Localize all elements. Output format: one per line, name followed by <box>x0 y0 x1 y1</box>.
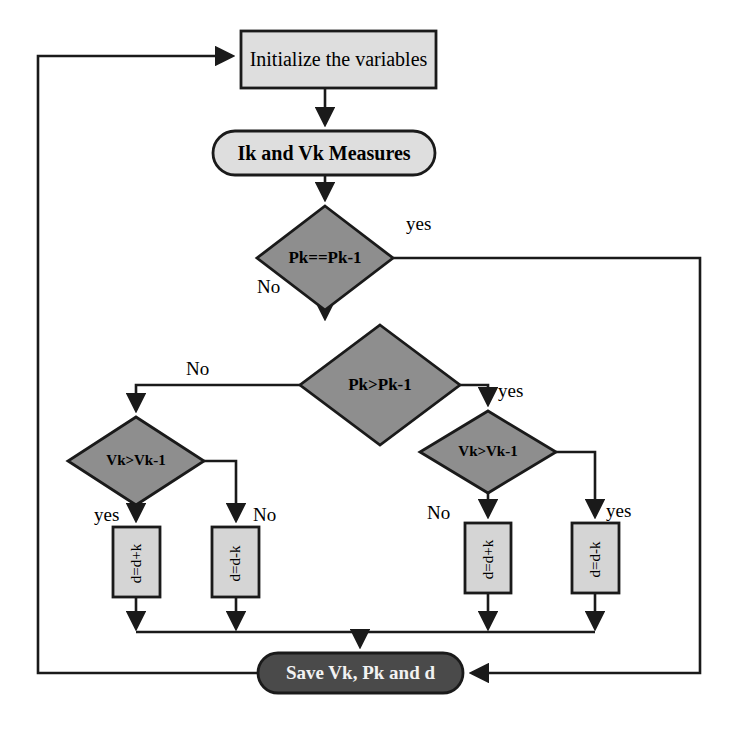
edge-dec2-yes-to-vkright <box>460 385 488 404</box>
node-box-left-minus-label: d=d-k <box>227 540 244 587</box>
node-measure[interactable] <box>213 131 435 175</box>
edge-label-vk-left-no: No <box>253 504 276 526</box>
node-decision-pk-greater[interactable] <box>300 325 460 445</box>
nodes-group <box>68 31 619 693</box>
edge-label-pk-equal-no: No <box>257 276 280 298</box>
node-decision-vk-left[interactable] <box>68 417 204 505</box>
edge-dec2-no-to-vkleft <box>136 385 300 410</box>
edge-label-pk-greater-yes: yes <box>498 380 523 402</box>
edge-label-vk-left-yes: yes <box>94 504 119 526</box>
edge-label-vk-right-yes: yes <box>606 500 631 522</box>
flowchart-graphics <box>0 0 741 730</box>
node-box-right-plus-label: d=d+k <box>480 537 497 583</box>
flowchart-canvas: Initialize the variables Ik and Vk Measu… <box>0 0 741 730</box>
edge-label-pk-equal-yes: yes <box>406 213 431 235</box>
edge-dec1-no-join <box>325 318 380 325</box>
edge-dec1-yes-to-save <box>393 258 700 673</box>
node-decision-vk-right[interactable] <box>420 411 556 493</box>
edge-vkright-yes-to-boxr2 <box>556 452 595 516</box>
edge-vkleft-no-to-boxl2 <box>204 461 236 520</box>
node-init[interactable] <box>241 31 436 88</box>
node-save-terminal[interactable] <box>258 653 463 693</box>
node-box-right-minus-label: d=d-k <box>587 536 604 583</box>
node-box-left-plus-label: d=d+k <box>128 540 145 587</box>
edge-label-vk-right-no: No <box>427 502 450 524</box>
edge-label-pk-greater-no: No <box>186 358 209 380</box>
